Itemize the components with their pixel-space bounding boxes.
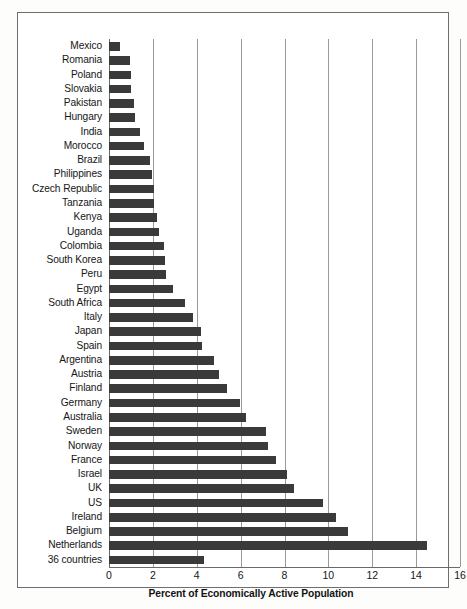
x-tick-16: 16: [445, 569, 467, 581]
category-label: Ireland: [18, 510, 102, 525]
bar: [109, 142, 144, 151]
bar-row: France: [18, 453, 460, 468]
bar: [109, 170, 152, 179]
x-axis-tick-labels: 0246810121416: [109, 569, 460, 585]
bar: [109, 484, 294, 493]
plot-area: MexicoRomaniaPolandSlovakiaPakistanHunga…: [109, 39, 460, 567]
bar-row: Kenya: [18, 210, 460, 225]
category-label: Italy: [18, 310, 102, 325]
bar: [109, 456, 276, 465]
bar-row: Austria: [18, 367, 460, 382]
chart-frame: MexicoRomaniaPolandSlovakiaPakistanHunga…: [17, 12, 449, 588]
bar-row: Poland: [18, 68, 460, 83]
bar: [109, 42, 120, 51]
bar-row: Czech Republic: [18, 182, 460, 197]
bar-row: South Africa: [18, 296, 460, 311]
bar: [109, 499, 323, 508]
chart-figure: MexicoRomaniaPolandSlovakiaPakistanHunga…: [0, 0, 467, 609]
x-axis-title: Percent of Economically Active Populatio…: [35, 588, 467, 599]
category-label: Peru: [18, 267, 102, 282]
bar: [109, 213, 157, 222]
bar: [109, 556, 204, 565]
bar: [109, 399, 240, 408]
category-label: Israel: [18, 467, 102, 482]
bar: [109, 442, 268, 451]
category-label: South Korea: [18, 253, 102, 268]
gridline-16: [460, 39, 461, 567]
bar-row: Netherlands: [18, 538, 460, 553]
x-tick-14: 14: [401, 569, 431, 581]
bar: [109, 128, 140, 137]
bar-row: UK: [18, 481, 460, 496]
category-label: Germany: [18, 396, 102, 411]
bar: [109, 342, 202, 351]
bar: [109, 228, 159, 237]
bar: [109, 313, 193, 322]
bar-row: Pakistan: [18, 96, 460, 111]
bar-row: Norway: [18, 439, 460, 454]
bar-row: Egypt: [18, 282, 460, 297]
category-label: Tanzania: [18, 196, 102, 211]
category-label: Poland: [18, 68, 102, 83]
category-label: Spain: [18, 339, 102, 354]
category-label: Finland: [18, 381, 102, 396]
bar-row: Argentina: [18, 353, 460, 368]
x-axis-line: [109, 567, 460, 568]
bar-row: US: [18, 496, 460, 511]
bar: [109, 470, 287, 479]
bar-row: Sweden: [18, 424, 460, 439]
bar: [109, 285, 173, 294]
category-label: South Africa: [18, 296, 102, 311]
x-tick-4: 4: [182, 569, 212, 581]
bar: [109, 270, 166, 279]
bar: [109, 356, 214, 365]
bar-row: Tanzania: [18, 196, 460, 211]
bar: [109, 199, 154, 208]
category-label: India: [18, 125, 102, 140]
bar: [109, 427, 266, 436]
x-tick-10: 10: [313, 569, 343, 581]
bar-row: Colombia: [18, 239, 460, 254]
bar: [109, 85, 131, 94]
x-tick-2: 2: [138, 569, 168, 581]
bar-row: Australia: [18, 410, 460, 425]
bar-row: Japan: [18, 324, 460, 339]
category-label: Philippines: [18, 167, 102, 182]
x-tick-6: 6: [226, 569, 256, 581]
bar: [109, 156, 150, 165]
category-label: Colombia: [18, 239, 102, 254]
category-label: Pakistan: [18, 96, 102, 111]
bar-row: Morocco: [18, 139, 460, 154]
category-label: UK: [18, 481, 102, 496]
bar-row: Hungary: [18, 110, 460, 125]
category-label: Netherlands: [18, 538, 102, 553]
bar: [109, 242, 164, 251]
category-label: Uganda: [18, 225, 102, 240]
category-label: Romania: [18, 53, 102, 68]
bar-row: Spain: [18, 339, 460, 354]
category-label: Brazil: [18, 153, 102, 168]
bar-row: Mexico: [18, 39, 460, 54]
bar: [109, 327, 201, 336]
bar-row: Slovakia: [18, 82, 460, 97]
bar: [109, 541, 427, 550]
category-label: Mexico: [18, 39, 102, 54]
category-label: Argentina: [18, 353, 102, 368]
bar-row: Philippines: [18, 167, 460, 182]
category-label: Kenya: [18, 210, 102, 225]
category-label: Egypt: [18, 282, 102, 297]
bar: [109, 299, 185, 308]
bar: [109, 113, 135, 122]
x-tick-0: 0: [94, 569, 124, 581]
category-label: Czech Republic: [18, 182, 102, 197]
category-label: Sweden: [18, 424, 102, 439]
bar: [109, 370, 219, 379]
bar-row: Finland: [18, 381, 460, 396]
bar-row: South Korea: [18, 253, 460, 268]
bar-row: Uganda: [18, 225, 460, 240]
category-label: France: [18, 453, 102, 468]
bar: [109, 413, 246, 422]
bar-row: Germany: [18, 396, 460, 411]
category-label: US: [18, 496, 102, 511]
bar: [109, 56, 130, 65]
